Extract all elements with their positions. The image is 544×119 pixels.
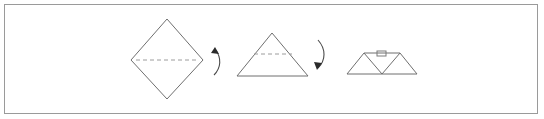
- diamond-outline: [131, 19, 203, 99]
- triangle-outline: [237, 33, 308, 76]
- arrow-two-head: [314, 62, 322, 70]
- fold-arrow-one: [211, 47, 220, 75]
- step-1-diamond-figure: [131, 19, 203, 99]
- step-3-double-triangle-figure: [347, 51, 417, 74]
- arrow-one-head: [211, 47, 219, 54]
- folding-sequence-illustration: [0, 0, 544, 119]
- fold-arrow-two: [314, 40, 324, 70]
- step-2-triangle-figure: [237, 33, 308, 76]
- diagram-page: Paper folding instruction sequence Squar…: [0, 0, 544, 119]
